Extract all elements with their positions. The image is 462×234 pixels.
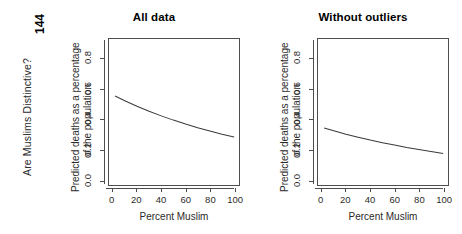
y-tick-mark	[100, 89, 104, 90]
x-tick-label: 80	[197, 194, 223, 205]
x-tick-mark	[136, 188, 137, 192]
x-tick-mark	[186, 188, 187, 192]
x-tick-mark	[112, 188, 113, 192]
y-tick-mark	[100, 58, 104, 59]
y-axis-title-without-outliers: Predicted deaths as a percentage of the …	[253, 0, 313, 234]
x-tick-mark	[345, 188, 346, 192]
y-tick-label: 0.4	[291, 106, 302, 132]
x-axis-title-without-outliers: Percent Muslim	[303, 211, 462, 222]
series-line-without-outliers	[324, 128, 443, 154]
x-tick-mark	[161, 188, 162, 192]
y-tick-label: 0.4	[82, 106, 93, 132]
series-line-all-data	[115, 96, 234, 137]
x-tick-mark	[444, 188, 445, 192]
plot-area-without-outliers	[317, 38, 449, 186]
x-tick-label: 80	[406, 194, 432, 205]
y-tick-mark	[309, 181, 313, 182]
y-axis-line	[313, 40, 314, 184]
y-tick-mark	[309, 150, 313, 151]
y-tick-mark	[100, 181, 104, 182]
x-tick-mark	[321, 188, 322, 192]
y-tick-label: 0.0	[291, 167, 302, 193]
y-axis-line	[104, 40, 105, 184]
y-axis-title-line1: Predicted deaths as a percentage	[279, 42, 290, 192]
y-tick-mark	[309, 89, 313, 90]
x-tick-label: 40	[148, 194, 174, 205]
x-tick-label: 60	[173, 194, 199, 205]
y-tick-label: 0.2	[82, 136, 93, 162]
x-tick-label: 40	[357, 194, 383, 205]
y-tick-label: 0.8	[82, 44, 93, 70]
y-tick-label: 0.6	[291, 75, 302, 101]
y-tick-mark	[100, 119, 104, 120]
x-tick-label: 20	[123, 194, 149, 205]
x-tick-label: 100	[222, 194, 248, 205]
x-tick-mark	[370, 188, 371, 192]
y-tick-mark	[100, 150, 104, 151]
y-tick-label: 0.8	[291, 44, 302, 70]
x-tick-label: 0	[308, 194, 334, 205]
y-tick-mark	[309, 58, 313, 59]
y-axis-title-all-data: Predicted deaths as a percentage of the …	[44, 0, 104, 234]
x-tick-label: 100	[431, 194, 457, 205]
chart-panel-without-outliers: Without outliers Predicted deaths as a p…	[253, 0, 462, 234]
x-tick-label: 0	[99, 194, 125, 205]
x-tick-mark	[210, 188, 211, 192]
y-tick-label: 0.6	[82, 75, 93, 101]
x-tick-label: 60	[382, 194, 408, 205]
chart-panel-all-data: All data Predicted deaths as a percentag…	[44, 0, 253, 234]
page-margin: Are Muslims Distinctive? 144	[0, 0, 44, 234]
plot-curve-all-data	[109, 39, 239, 185]
plot-area-all-data	[108, 38, 240, 186]
y-axis-title-line1: Predicted deaths as a percentage	[70, 42, 81, 192]
plot-curve-without-outliers	[318, 39, 448, 185]
x-axis-title-all-data: Percent Muslim	[94, 211, 254, 222]
x-axis-line	[315, 188, 443, 189]
x-tick-mark	[395, 188, 396, 192]
running-head: Are Muslims Distinctive?	[21, 58, 33, 176]
x-axis-line	[106, 188, 234, 189]
y-tick-label: 0.2	[291, 136, 302, 162]
x-tick-mark	[419, 188, 420, 192]
y-tick-label: 0.0	[82, 167, 93, 193]
x-tick-label: 20	[332, 194, 358, 205]
y-tick-mark	[309, 119, 313, 120]
x-tick-mark	[235, 188, 236, 192]
